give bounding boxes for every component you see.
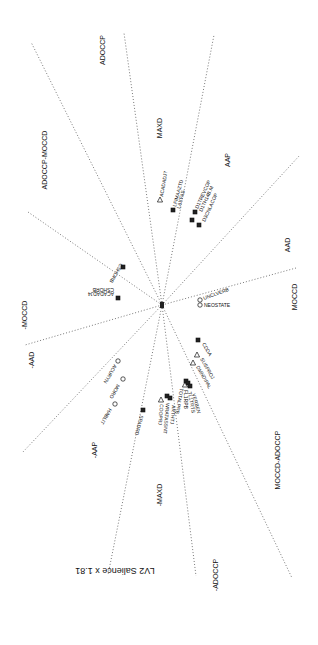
axis-line (25, 305, 162, 345)
axis-line (124, 33, 162, 305)
triangle-marker-icon (158, 397, 163, 402)
circle-marker-icon (113, 402, 117, 406)
diagram-caption: LV2 Salience x 1.81 (75, 566, 154, 576)
salience-radial-diagram: ADOCCPADOCCP-MOCCDMAXDAAPAADMOCCDMOCCD-A… (0, 0, 318, 645)
point-label: CSHORB (92, 287, 114, 293)
point-label: NEOSTATE (204, 302, 231, 308)
point-label: ACADADJ7 (158, 170, 168, 197)
data-point: CSHORB (92, 287, 114, 293)
point-label: CDDA (201, 342, 214, 358)
data-point: ACURYN (102, 359, 120, 385)
triangle-marker-icon (190, 360, 195, 365)
region-label: -ADOCCP (212, 559, 219, 592)
data-point (190, 218, 194, 222)
circle-marker-icon (121, 377, 125, 381)
region-label: ADOCCP-MOCCD (41, 131, 48, 190)
triangle-marker-icon (194, 352, 199, 357)
point-label: MORO (108, 384, 121, 401)
circle-marker-icon (116, 359, 120, 363)
axis-line (162, 155, 300, 305)
square-marker-icon (190, 218, 194, 222)
data-point: CSHORB (108, 263, 125, 285)
region-label: MOCCD-ADOCCP (274, 430, 281, 489)
axis-line (162, 268, 296, 305)
region-label: -MAXD (156, 484, 163, 507)
data-point: ACADADJ7 (157, 170, 168, 202)
point-label: ACURYN (102, 364, 118, 386)
region-label: -AAD (28, 352, 35, 369)
square-marker-icon (193, 210, 197, 214)
region-label: -AAP (91, 442, 98, 459)
square-marker-icon (168, 396, 172, 400)
region-label: AAD (284, 238, 291, 252)
axis-line (162, 305, 196, 576)
point-label: HABLIT (99, 408, 113, 426)
square-marker-icon (171, 208, 175, 212)
axis-line (162, 305, 292, 578)
square-marker-icon (196, 338, 200, 342)
square-marker-icon (141, 408, 145, 412)
axis-line (31, 42, 162, 305)
region-labels: ADOCCPADOCCP-MOCCDMAXDAAPAADMOCCDMOCCD-A… (21, 35, 298, 591)
data-point: SPADRD (134, 408, 145, 436)
region-label: AAP (224, 153, 231, 167)
circle-marker-icon (198, 303, 202, 307)
point-label: UNCLVERB (202, 286, 230, 301)
point-label: SPADRD (134, 415, 145, 437)
region-label: MOCCD (291, 284, 298, 310)
square-marker-icon (116, 296, 120, 300)
region-label: MAXD (156, 118, 163, 138)
point-label: CSHORB (108, 263, 124, 285)
axis-line (162, 35, 214, 305)
region-label: ADOCCP (99, 35, 106, 65)
data-point: HABLIT (99, 402, 117, 426)
center-marker (160, 302, 164, 308)
data-point: NEOSTATE (198, 302, 231, 308)
circle-marker-icon (198, 298, 202, 302)
region-label: -MOCCD (21, 301, 28, 330)
square-marker-icon (188, 384, 192, 388)
square-marker-icon (197, 223, 201, 227)
axis-line (108, 305, 162, 575)
